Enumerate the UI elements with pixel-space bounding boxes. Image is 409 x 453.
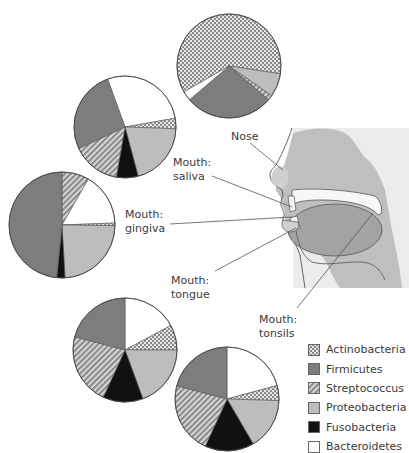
legend-item-firmicutes: Firmicutes bbox=[308, 359, 406, 378]
lower-lip bbox=[282, 220, 299, 232]
slice-firmicutes bbox=[9, 172, 62, 278]
legend-item-proteobacteria: Proteobacteria bbox=[308, 398, 406, 417]
leader-gingiva bbox=[170, 217, 292, 224]
solid-swatch-icon bbox=[308, 421, 320, 433]
legend-item-fusobacteria: Fusobacteria bbox=[308, 418, 406, 437]
label-saliva-line1: Mouth: bbox=[173, 156, 211, 170]
label-tongue: Mouth: tongue bbox=[171, 274, 210, 302]
label-saliva: Mouth: saliva bbox=[173, 156, 211, 184]
legend-label: Firmicutes bbox=[326, 363, 383, 376]
legend-label: Fusobacteria bbox=[326, 421, 396, 434]
pie-mouth-gingiva bbox=[9, 172, 115, 278]
pie-nose bbox=[177, 14, 281, 118]
legend-label: Proteobacteria bbox=[326, 401, 406, 414]
label-tongue-line1: Mouth: bbox=[171, 274, 210, 288]
label-saliva-line2: saliva bbox=[173, 170, 211, 184]
legend-item-bacteroidetes: Bacteroidetes bbox=[308, 437, 406, 453]
label-gingiva: Mouth: gingiva bbox=[125, 208, 165, 236]
legend-label: Actinobacteria bbox=[326, 343, 406, 356]
legend-item-actinobacteria: Actinobacteria bbox=[308, 340, 406, 359]
head-illustration bbox=[270, 128, 409, 288]
solid-swatch-icon bbox=[308, 363, 320, 375]
label-gingiva-line1: Mouth: bbox=[125, 208, 165, 222]
label-tonsils-line1: Mouth: bbox=[259, 313, 297, 327]
label-tonsils-line2: tonsils bbox=[259, 327, 297, 341]
label-tongue-line2: tongue bbox=[171, 288, 210, 302]
solid-swatch-icon bbox=[308, 441, 320, 453]
label-nose: Nose bbox=[231, 130, 258, 144]
solid-swatch-icon bbox=[308, 402, 320, 414]
leader-tongue bbox=[215, 228, 296, 271]
legend-label: Bacteroidetes bbox=[326, 440, 402, 453]
legend-label: Streptococcus bbox=[326, 382, 404, 395]
label-tonsils: Mouth: tonsils bbox=[259, 313, 297, 341]
legend: Actinobacteria Firmicutes Streptococcus … bbox=[308, 340, 406, 453]
pie-mouth-tonsils bbox=[175, 347, 279, 451]
pie-mouth-tongue bbox=[73, 298, 177, 402]
slice-proteobacteria bbox=[62, 225, 115, 278]
checker-swatch-icon bbox=[308, 344, 320, 356]
legend-item-streptococcus: Streptococcus bbox=[308, 379, 406, 398]
leader-nose bbox=[250, 143, 283, 170]
tongue-shape bbox=[288, 204, 382, 256]
label-gingiva-line2: gingiva bbox=[125, 222, 165, 236]
hatch-swatch-icon bbox=[308, 382, 320, 394]
pie-mouth-saliva bbox=[74, 76, 176, 178]
